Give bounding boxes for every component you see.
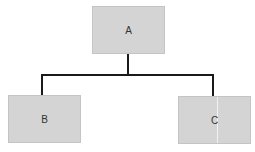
node-b: B bbox=[8, 95, 81, 143]
node-c-label: C bbox=[211, 115, 218, 126]
node-b-label: B bbox=[41, 114, 48, 125]
node-a-label: A bbox=[125, 25, 132, 36]
node-c: C bbox=[178, 96, 251, 144]
node-a: A bbox=[92, 6, 165, 54]
